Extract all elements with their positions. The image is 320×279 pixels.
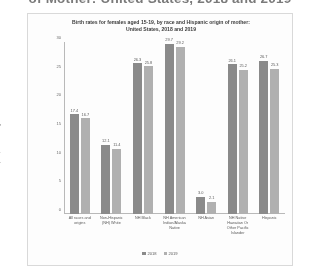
chart-legend: 2018 2019 [28, 251, 292, 256]
x-axis-tick-label: All races andorigins [64, 216, 96, 236]
chart-title-line-2: United States, 2018 and 2019 [34, 26, 288, 33]
legend-item-2018[interactable]: 2018 [142, 251, 156, 256]
bar[interactable]: 29.2 [176, 47, 185, 214]
bar-group: 17.416.7 [64, 42, 96, 214]
legend-swatch-icon-2019 [164, 252, 168, 256]
bar-value-label: 11.4 [113, 142, 120, 147]
bar-value-label: 16.7 [81, 112, 89, 117]
bar-group: 3.02.1 [190, 42, 222, 214]
chart-title: Birth rates for females aged 15-19, by r… [34, 19, 288, 33]
bar-group: 26.325.8 [127, 42, 159, 214]
bar[interactable]: 26.7 [259, 61, 268, 214]
x-axis-tick-label: Hispanic [253, 216, 285, 236]
y-axis-label: Rate per 1,000 females aged 15-19 [0, 107, 1, 172]
y-tick-10: 10 [56, 149, 61, 154]
y-tick-30: 30 [56, 35, 61, 40]
bar-group: 26.725.3 [253, 42, 285, 214]
bar-value-label: 26.7 [260, 54, 268, 59]
chart-title-line-1: Birth rates for females aged 15-19, by r… [34, 19, 288, 26]
bar-value-label: 26.3 [134, 57, 142, 62]
bar[interactable]: 3.0 [196, 197, 205, 214]
y-tick-15: 15 [56, 121, 61, 126]
bar-value-label: 3.0 [198, 190, 203, 195]
legend-swatch-icon-2018 [142, 252, 146, 256]
bar[interactable]: 25.8 [144, 66, 153, 214]
bar[interactable]: 17.4 [70, 114, 79, 214]
bar-value-label: 25.3 [271, 62, 279, 67]
x-axis-tick-label: NH AmericanIndian/AlaskaNative [159, 216, 191, 236]
bar-groups: 17.416.712.111.426.325.829.729.23.02.126… [64, 42, 285, 214]
legend-label-2018: 2018 [147, 251, 156, 256]
bar-value-label: 29.2 [176, 40, 184, 45]
bar[interactable]: 26.3 [133, 63, 142, 214]
x-axis-tick-label: NH Asian [190, 216, 222, 236]
chart-card: Birth rates for females aged 15-19, by r… [27, 13, 293, 266]
bar-group: 12.111.4 [96, 42, 128, 214]
bar[interactable]: 26.1 [228, 64, 237, 214]
bar-value-label: 12.1 [102, 138, 110, 143]
bar-group: 26.125.2 [222, 42, 254, 214]
legend-label-2019: 2019 [169, 251, 178, 256]
bar-value-label: 17.4 [70, 108, 78, 113]
bar[interactable]: 2.1 [207, 202, 216, 214]
y-tick-0: 0 [59, 207, 61, 212]
bar[interactable]: 12.1 [101, 145, 110, 214]
bar-value-label: 25.2 [239, 63, 247, 68]
bar-value-label: 2.1 [209, 195, 214, 200]
y-tick-5: 5 [59, 178, 61, 183]
bar[interactable]: 25.3 [270, 69, 279, 214]
bar-value-label: 29.7 [165, 37, 173, 42]
bar-value-label: 26.1 [228, 58, 236, 63]
bar[interactable]: 16.7 [81, 118, 90, 214]
x-axis-labels: All races andoriginsNon-Hispanic(NH) Whi… [64, 216, 285, 236]
plot-area: 30 25 20 15 10 5 0 17.416.712.111.426.32… [64, 42, 285, 214]
x-axis-tick-label: NH Black [127, 216, 159, 236]
page-heading: of Mother: United States, 2018 and 2019 [0, 0, 320, 6]
bar-value-label: 25.8 [145, 60, 153, 65]
bar[interactable]: 29.7 [165, 44, 174, 214]
x-axis-tick-label: Non-Hispanic(NH) White [96, 216, 128, 236]
bar-group: 29.729.2 [159, 42, 191, 214]
legend-item-2019[interactable]: 2019 [164, 251, 178, 256]
y-tick-25: 25 [56, 63, 61, 68]
bar[interactable]: 25.2 [239, 70, 248, 214]
bar[interactable]: 11.4 [112, 149, 121, 214]
x-axis-tick-label: NH NativeHawaiian OrOther PacificIslande… [222, 216, 254, 236]
y-tick-20: 20 [56, 92, 61, 97]
